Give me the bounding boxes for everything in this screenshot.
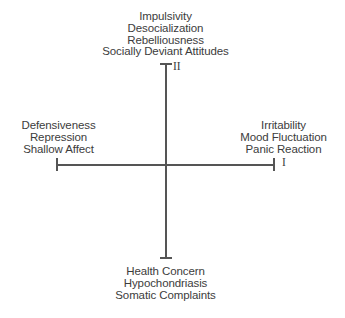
top-pole-label-line: Desocialization <box>0 23 331 35</box>
top-pole-label-group: Impulsivity Desocialization Rebelliousne… <box>0 11 331 58</box>
axis-cap-left <box>56 158 58 171</box>
axis-cap-right <box>273 158 275 171</box>
right-pole-label-line: Mood Fluctuation <box>222 132 345 144</box>
axis-numeral-i: I <box>282 157 286 169</box>
axis-cap-bottom <box>160 257 172 259</box>
bottom-pole-label-line: Hypochondriasis <box>0 278 331 290</box>
horizontal-axis-line <box>57 164 275 166</box>
quadrant-diagram: II I Impulsivity Desocialization Rebelli… <box>0 0 345 318</box>
left-pole-label-group: Defensiveness Repression Shallow Affect <box>0 120 117 155</box>
axis-numeral-ii: II <box>173 61 181 73</box>
axis-cap-top <box>160 63 172 65</box>
vertical-axis-line <box>165 64 167 259</box>
bottom-pole-label-group: Health Concern Hypochondriasis Somatic C… <box>0 266 331 301</box>
left-pole-label-line: Shallow Affect <box>0 144 117 156</box>
right-pole-label-line: Panic Reaction <box>222 144 345 156</box>
top-pole-label-line: Socially Deviant Attitudes <box>0 46 331 58</box>
right-pole-label-group: Irritability Mood Fluctuation Panic Reac… <box>222 120 345 155</box>
left-pole-label-line: Repression <box>0 132 117 144</box>
bottom-pole-label-line: Somatic Complaints <box>0 290 331 302</box>
